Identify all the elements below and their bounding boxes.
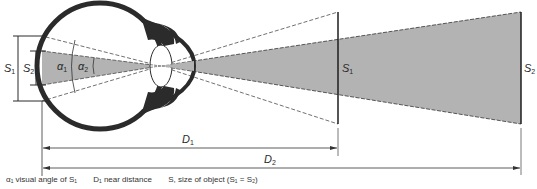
far-object-shaded-cone xyxy=(160,12,521,124)
d1-dimension xyxy=(43,146,337,150)
caption-object-size: S, size of object (S₁ = S₂) xyxy=(168,175,258,184)
visual-angle-diagram: α1 α2 S1 S2 S1 S2 D1 D2 xyxy=(0,0,537,189)
d2-dimension xyxy=(43,166,520,170)
d1-label: D1 xyxy=(182,133,194,146)
d2-label: D2 xyxy=(264,153,276,166)
s1-left-label: S1 xyxy=(4,62,15,75)
s2-object-label: S2 xyxy=(524,62,535,75)
s2-left-label: S2 xyxy=(23,62,34,75)
legend-caption: α₁ visual angle of S₁ D₁ near distance S… xyxy=(6,175,272,184)
caption-visual-angle: α₁ visual angle of S₁ xyxy=(6,175,77,184)
caption-near-distance: D₁ near distance xyxy=(93,175,152,184)
